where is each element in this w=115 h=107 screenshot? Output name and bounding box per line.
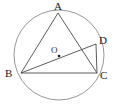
vertex-label-b: B	[5, 68, 12, 79]
geometry-figure: A B C D O	[0, 0, 115, 107]
center-point-dot	[58, 55, 61, 58]
vertex-label-c: C	[100, 70, 107, 81]
segment-bd	[21, 44, 96, 73]
segment-dc	[96, 44, 97, 73]
vertex-label-d: D	[99, 35, 107, 46]
vertex-label-a: A	[54, 1, 62, 12]
segment-ac	[58, 13, 97, 73]
segment-ab	[21, 13, 58, 73]
center-label-o: O	[51, 46, 58, 55]
